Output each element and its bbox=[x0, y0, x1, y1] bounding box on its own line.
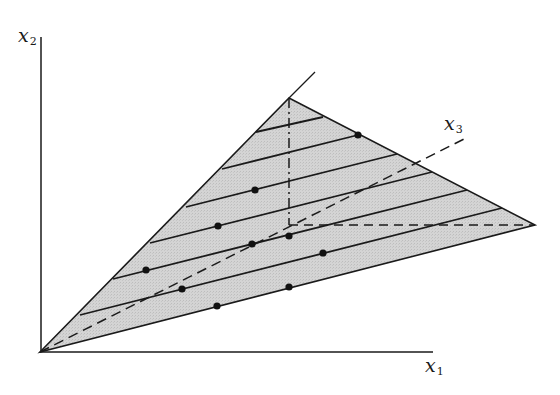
diagram-svg bbox=[0, 0, 560, 395]
lattice-point bbox=[213, 302, 220, 309]
diagram-canvas: x2 x1 x3 bbox=[0, 0, 560, 395]
axis-label-x1: x1 bbox=[425, 356, 444, 377]
lattice-point bbox=[251, 186, 258, 193]
axis-label-x3: x3 bbox=[444, 114, 463, 135]
axis-label-x2: x2 bbox=[18, 26, 37, 47]
lattice-point bbox=[319, 249, 326, 256]
lattice-point bbox=[214, 222, 221, 229]
lattice-point bbox=[248, 240, 255, 247]
lattice-point bbox=[285, 232, 292, 239]
edge-extension-line bbox=[289, 72, 315, 98]
lattice-point bbox=[354, 131, 361, 138]
lattice-point bbox=[142, 266, 149, 273]
lattice-point bbox=[285, 283, 292, 290]
lattice-point bbox=[178, 285, 185, 292]
